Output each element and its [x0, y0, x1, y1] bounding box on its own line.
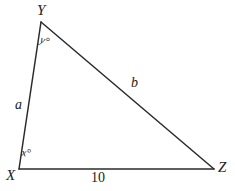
- side-label-a: a: [15, 98, 22, 112]
- side-label-b: b: [131, 76, 138, 90]
- vertex-label-z: Z: [218, 160, 226, 175]
- triangle-side-yz: [41, 22, 214, 169]
- triangle-svg: [0, 0, 235, 191]
- vertex-label-y: Y: [37, 3, 45, 18]
- triangle-figure: Y X Z a b 10 y° x°: [0, 0, 235, 191]
- angle-label-x: x°: [21, 147, 31, 159]
- vertex-label-x: X: [6, 168, 15, 183]
- side-length-label-xz: 10: [91, 171, 105, 185]
